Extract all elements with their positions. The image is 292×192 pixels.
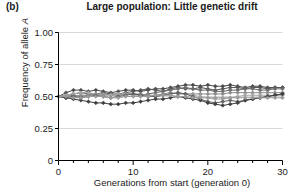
- series-marker: [161, 97, 165, 101]
- series-marker: [198, 88, 202, 92]
- series-marker: [109, 102, 113, 106]
- series-marker: [221, 100, 225, 104]
- y-tick-label: 0: [17, 155, 53, 166]
- data-series-group: [57, 83, 285, 107]
- series-marker: [79, 91, 83, 95]
- series-marker: [176, 95, 180, 99]
- figure-panel-b: (b) Large population: Little genetic dri…: [0, 0, 291, 192]
- series-marker: [94, 101, 98, 105]
- series-marker: [72, 88, 76, 92]
- x-tick-label: 0: [47, 166, 71, 177]
- series-marker: [94, 88, 98, 92]
- axis-ticks: [55, 33, 283, 166]
- x-tick-label: 30: [271, 166, 292, 177]
- series-marker: [154, 97, 158, 101]
- series-marker: [101, 101, 105, 105]
- y-tick-label: 1.00: [17, 27, 53, 38]
- series-marker: [131, 101, 135, 105]
- series-marker: [86, 100, 90, 104]
- series-marker: [206, 92, 210, 96]
- x-tick-label: 20: [196, 166, 220, 177]
- series-marker: [228, 91, 232, 95]
- series-marker: [221, 104, 225, 108]
- series-marker: [191, 87, 195, 91]
- y-tick-label: 0.75: [17, 59, 53, 70]
- series-marker: [228, 102, 232, 106]
- gridlines: [59, 33, 283, 129]
- y-tick-label: 0.25: [17, 123, 53, 134]
- series-marker: [236, 91, 240, 95]
- series-marker: [139, 100, 143, 104]
- series-marker: [206, 83, 210, 87]
- series-marker: [191, 83, 195, 87]
- x-tick-label: 10: [121, 166, 145, 177]
- series-marker: [146, 98, 150, 102]
- series-marker: [116, 102, 120, 106]
- y-tick-label: 0.50: [17, 91, 53, 102]
- series-marker: [213, 84, 217, 88]
- series-marker: [124, 101, 128, 105]
- series-marker: [221, 92, 225, 96]
- series-marker: [213, 92, 217, 96]
